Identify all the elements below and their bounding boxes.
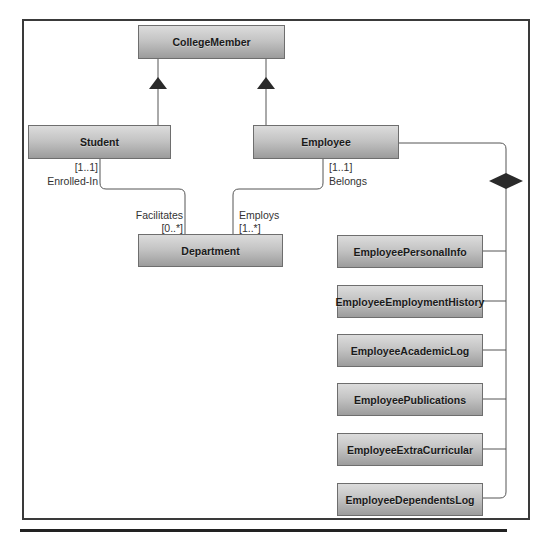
- generalization-arrow-icon: [257, 77, 275, 89]
- department-facilitates-role: Facilitates: [136, 209, 183, 222]
- class-employee-publications: EmployeePublications: [337, 383, 483, 416]
- department-facilitates-multiplicity: [0..*]: [161, 222, 183, 235]
- class-employee-employment-history: EmployeeEmploymentHistory: [337, 285, 483, 318]
- class-employee-extra-curricular: EmployeeExtraCurricular: [337, 433, 483, 466]
- employee-role: Belongs: [329, 175, 367, 188]
- class-employee: Employee: [253, 125, 399, 159]
- class-employee-dependents-log: EmployeeDependentsLog: [337, 483, 483, 516]
- student-multiplicity: [1..1]: [75, 161, 98, 174]
- class-college-member: CollegeMember: [138, 25, 285, 59]
- department-employs-multiplicity: [1..*]: [239, 222, 261, 235]
- class-student: Student: [28, 125, 171, 159]
- employee-multiplicity: [1..1]: [329, 161, 352, 174]
- class-employee-personal-info: EmployeePersonalInfo: [337, 235, 483, 268]
- caption-rule: [20, 529, 507, 532]
- student-role: Enrolled-In: [47, 175, 98, 188]
- department-employs-role: Employs: [239, 209, 279, 222]
- class-department: Department: [138, 234, 283, 267]
- composition-diamond-icon: [489, 173, 523, 189]
- generalization-arrow-icon: [149, 77, 167, 89]
- class-employee-academic-log: EmployeeAcademicLog: [337, 334, 483, 367]
